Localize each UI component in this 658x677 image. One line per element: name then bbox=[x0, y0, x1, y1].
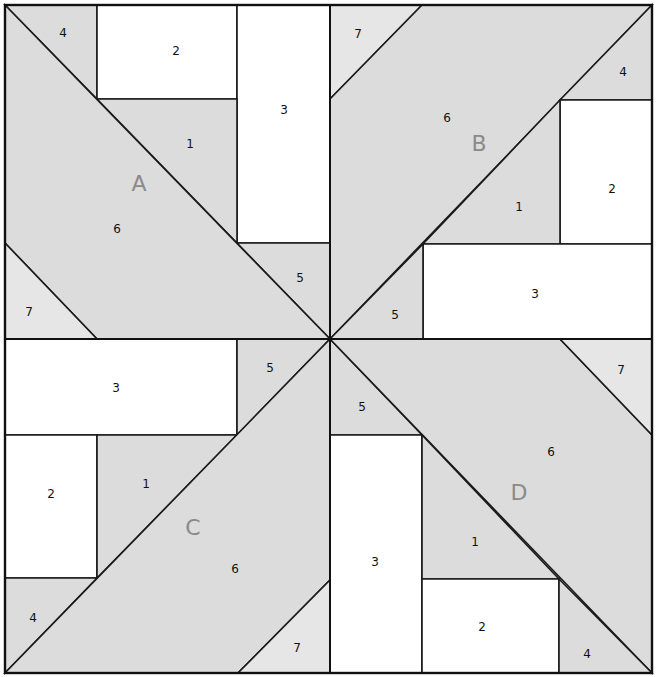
quadrant-label-b: B bbox=[471, 131, 486, 156]
piece-number-label: 2 bbox=[478, 620, 486, 634]
quadrant-b-piece-2 bbox=[560, 100, 652, 244]
piece-number-label: 1 bbox=[515, 200, 523, 214]
piece-number-label: 3 bbox=[280, 103, 288, 117]
quadrant-c-piece-2 bbox=[5, 435, 97, 578]
piece-number-label: 1 bbox=[186, 137, 194, 151]
piece-number-label: 6 bbox=[113, 222, 121, 236]
piece-number-label: 4 bbox=[583, 647, 591, 661]
piece-number-label: 7 bbox=[617, 363, 625, 377]
piece-number-label: 6 bbox=[231, 562, 239, 576]
piece-number-label: 3 bbox=[112, 381, 120, 395]
piece-number-label: 4 bbox=[29, 611, 37, 625]
piece-number-label: 3 bbox=[371, 555, 379, 569]
quadrant-a-piece-2 bbox=[97, 5, 237, 99]
piece-number-label: 2 bbox=[608, 182, 616, 196]
quadrant-label-c: C bbox=[185, 515, 200, 540]
piece-number-label: 2 bbox=[47, 487, 55, 501]
piece-number-label: 1 bbox=[142, 477, 150, 491]
quadrant-label-d: D bbox=[511, 480, 528, 505]
quadrant-a-piece-3 bbox=[237, 5, 330, 243]
piece-number-label: 7 bbox=[354, 27, 362, 41]
piece-number-label: 7 bbox=[293, 641, 301, 655]
piece-number-label: 5 bbox=[391, 308, 399, 322]
piece-number-label: 7 bbox=[25, 305, 33, 319]
quadrant-d-piece-2 bbox=[422, 579, 559, 673]
piece-number-label: 5 bbox=[296, 271, 304, 285]
piece-number-label: 5 bbox=[358, 400, 366, 414]
quadrant-c-piece-3 bbox=[5, 339, 237, 435]
quadrant-label-a: A bbox=[131, 171, 146, 196]
piece-number-label: 4 bbox=[619, 65, 627, 79]
piece-number-label: 6 bbox=[443, 111, 451, 125]
piece-number-label: 2 bbox=[172, 44, 180, 58]
piece-number-label: 5 bbox=[266, 361, 274, 375]
piece-number-label: 3 bbox=[531, 287, 539, 301]
piece-number-label: 4 bbox=[59, 26, 67, 40]
piece-number-label: 6 bbox=[547, 445, 555, 459]
quilt-block-diagram: 4231567764213535214675673124 ABCD bbox=[0, 0, 658, 677]
piece-number-label: 1 bbox=[471, 535, 479, 549]
